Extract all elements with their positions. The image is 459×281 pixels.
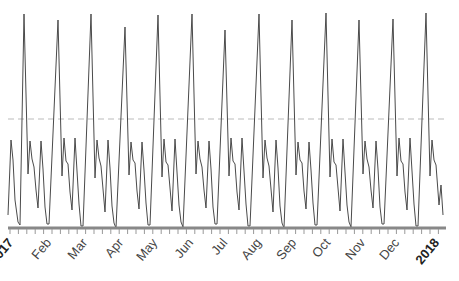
x-tick-label: Jun — [171, 235, 196, 261]
x-tick-label: Mar — [64, 235, 90, 262]
x-axis-ticks — [10, 229, 438, 234]
x-axis-labels: 2017FebMarAprMayJunJulAugSepOctNovDec201… — [0, 235, 442, 267]
x-tick-label: May — [133, 235, 161, 264]
x-tick-label: 2017 — [0, 235, 16, 267]
series-line — [8, 13, 443, 228]
x-tick-label: Oct — [309, 235, 334, 260]
x-tick-label: 2018 — [412, 235, 442, 267]
x-tick-label: Jul — [208, 235, 230, 257]
x-tick-label: Dec — [376, 235, 403, 263]
x-tick-label: Aug — [238, 235, 264, 262]
x-tick-label: Sep — [273, 235, 299, 262]
x-tick-label: Apr — [102, 235, 127, 261]
x-tick-label: Nov — [342, 235, 369, 263]
x-tick-label: Feb — [28, 235, 54, 262]
chart-canvas: 2017FebMarAprMayJunJulAugSepOctNovDec201… — [0, 0, 459, 281]
